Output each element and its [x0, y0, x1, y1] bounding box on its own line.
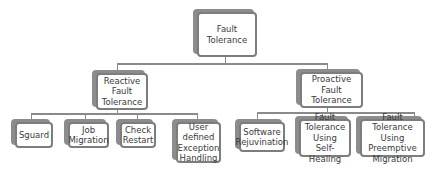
connector-reactive-bar	[31, 113, 198, 115]
node-label: User defined Exception Handling	[178, 122, 220, 164]
node-label: Fault Tolerance	[207, 24, 248, 45]
node-label: Fault Tolerance Using Preemptive Migrati…	[364, 112, 421, 165]
node-proactive-fault-tolerance: Proactive Fault Tolerance	[300, 72, 363, 108]
node-check-restart: Check Restart	[120, 122, 156, 148]
node-label: Sguard	[19, 130, 49, 141]
node-job-migration: Job Migration	[68, 122, 109, 148]
node-label: Reactive Fault Tolerance	[102, 76, 143, 108]
node-label: Job Migration	[68, 125, 108, 146]
node-label: Check Restart	[123, 125, 154, 146]
node-label: Fault Tolerance Using Self-Healing	[303, 112, 347, 165]
node-label: Software Rejuvination	[236, 127, 289, 148]
node-fault-tolerance: Fault Tolerance	[197, 12, 257, 57]
node-fault-tolerance-preemptive-migration: Fault Tolerance Using Preemptive Migrati…	[360, 119, 425, 157]
node-sguard: Sguard	[15, 122, 53, 148]
node-software-rejuvination: Software Rejuvination	[239, 122, 285, 152]
node-label: Proactive Fault Tolerance	[311, 74, 352, 106]
node-user-defined-exception-handling: User defined Exception Handling	[176, 122, 221, 163]
node-fault-tolerance-self-healing: Fault Tolerance Using Self-Healing	[299, 119, 351, 157]
connector-level1-bar	[117, 63, 328, 65]
connector-to-software-rejuvination	[257, 112, 258, 119]
node-reactive-fault-tolerance: Reactive Fault Tolerance	[96, 73, 148, 110]
